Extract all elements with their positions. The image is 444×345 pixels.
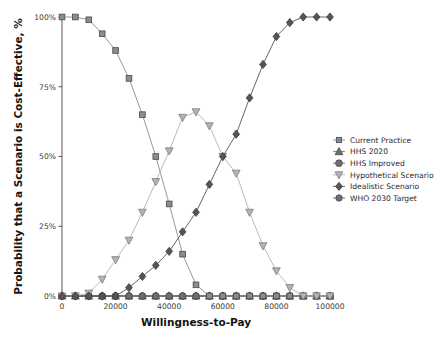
data-point-marker (286, 285, 294, 292)
y-axis-tick-label: 25% (39, 222, 56, 231)
y-axis-tick-label: 0% (44, 292, 56, 301)
data-point-marker (246, 94, 253, 102)
data-point-marker (125, 237, 133, 244)
legend-item-label: Hypothetical Scenario (350, 171, 434, 180)
series-line (62, 17, 330, 296)
data-point-marker (165, 148, 173, 155)
data-point-marker (206, 180, 213, 188)
data-point-marker (327, 13, 334, 21)
legend-item-current-practice[interactable]: Current Practice (333, 136, 412, 145)
x-axis-tick-label: 80000 (264, 302, 288, 311)
series-current-practice (59, 14, 333, 299)
axes-layer: 0%25%50%75%100%0200004000060000800001000… (34, 13, 344, 311)
data-point-marker (260, 293, 266, 299)
legend-item-label: HHS 2020 (350, 147, 388, 156)
legend-item-hypothetical-scenario[interactable]: Hypothetical Scenario (333, 171, 434, 180)
data-point-marker (86, 17, 92, 23)
legend-item-idealistic-scenario[interactable]: Idealistic Scenario (333, 182, 420, 191)
data-point-marker (300, 13, 307, 21)
data-point-marker (153, 154, 159, 160)
data-point-marker (152, 179, 160, 186)
x-axis-tick-label: 40000 (157, 302, 181, 311)
legend-item-who-2030-target[interactable]: WHO 2030 Target (333, 194, 417, 203)
series-layer (58, 13, 334, 300)
data-point-marker (207, 293, 213, 299)
legend-item-label: HHS Improved (350, 159, 405, 168)
data-point-marker (139, 272, 146, 280)
chart-figure: 0%25%50%75%100%0200004000060000800001000… (0, 0, 444, 345)
legend-item-label: WHO 2030 Target (350, 194, 417, 203)
data-point-marker (246, 209, 254, 216)
x-axis-tick-label: 0 (60, 302, 65, 311)
data-point-marker (126, 76, 132, 82)
data-point-marker (232, 170, 240, 177)
data-point-marker (220, 293, 226, 299)
data-point-marker (59, 14, 65, 20)
data-point-marker (180, 251, 186, 257)
x-axis-tick-label: 20000 (104, 302, 128, 311)
data-point-marker (193, 293, 199, 299)
data-point-marker (139, 293, 145, 299)
data-point-marker (139, 209, 147, 216)
data-point-marker (260, 60, 267, 68)
y-axis-tick-label: 75% (39, 83, 56, 92)
chart-canvas: 0%25%50%75%100%0200004000060000800001000… (0, 0, 444, 345)
data-point-marker (99, 31, 105, 37)
legend-marker-icon (336, 137, 341, 142)
data-point-marker (166, 293, 172, 299)
series-line (62, 17, 330, 296)
y-axis-tick-label: 50% (39, 152, 56, 161)
chart-legend: Current PracticeHHS 2020HHS ImprovedHypo… (333, 136, 434, 203)
data-point-marker (274, 293, 280, 299)
data-point-marker (233, 293, 239, 299)
legend-item-hhs-improved[interactable]: HHS Improved (333, 159, 405, 168)
data-point-marker (313, 13, 320, 21)
legend-marker-icon (336, 182, 343, 190)
data-point-marker (166, 201, 172, 207)
legend-marker-icon (335, 172, 343, 179)
data-point-marker (73, 14, 79, 20)
y-axis-title: Probability that a Scenario is Cost-Effe… (12, 18, 24, 295)
data-point-marker (112, 257, 120, 264)
series-hypothetical-scenario (58, 109, 334, 300)
x-axis-title: Willingness-to-Pay (141, 316, 251, 328)
legend-item-hhs-2020[interactable]: HHS 2020 (333, 147, 388, 156)
x-axis-tick-label: 60000 (211, 302, 235, 311)
data-point-marker (206, 123, 214, 130)
data-point-marker (140, 112, 146, 118)
data-point-marker (233, 130, 240, 138)
data-point-marker (126, 293, 132, 299)
series-line (62, 112, 330, 296)
legend-marker-icon (335, 148, 343, 155)
data-point-marker (126, 284, 133, 292)
legend-item-label: Current Practice (350, 136, 412, 145)
series-idealistic-scenario (59, 13, 334, 300)
data-point-marker (179, 293, 185, 299)
data-point-marker (153, 293, 159, 299)
data-point-marker (259, 243, 267, 250)
data-point-marker (247, 293, 253, 299)
data-point-marker (113, 48, 119, 54)
legend-marker-icon (336, 195, 342, 201)
legend-item-label: Idealistic Scenario (350, 182, 420, 191)
y-axis-tick-label: 100% (34, 13, 56, 22)
data-point-marker (287, 293, 293, 299)
x-axis-tick-label: 100000 (316, 302, 345, 311)
data-point-marker (193, 282, 199, 288)
data-point-marker (179, 114, 187, 121)
legend-marker-icon (336, 160, 343, 167)
